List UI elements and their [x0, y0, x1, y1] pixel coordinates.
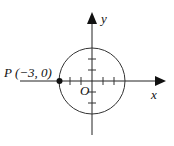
origin-label: O	[80, 84, 89, 97]
y-axis-label: y	[101, 12, 107, 25]
point-p-label: P (−3, 0)	[4, 66, 52, 79]
y-axis-arrow-icon	[87, 12, 97, 24]
point-p	[57, 78, 63, 84]
diagram-canvas: y x O P (−3, 0)	[0, 0, 174, 146]
x-axis-arrow-icon	[155, 76, 166, 86]
x-axis-label: x	[151, 88, 157, 101]
